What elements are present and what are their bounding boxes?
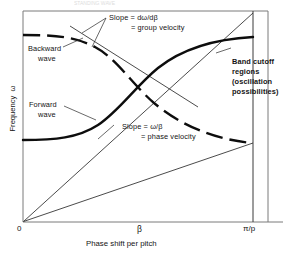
annotation-phase-velocity-line1: Slope = ω/β: [122, 122, 163, 131]
x-tick-label-0: 0: [17, 224, 21, 233]
y-axis-label: Frequency ω: [8, 73, 17, 145]
annotation-forward-wave-line1: Forward: [29, 100, 57, 109]
annotation-band-cutoff-line3: (oscillation: [232, 77, 272, 86]
annotation-band-cutoff-line2: regions: [232, 67, 259, 76]
annotation-phase-velocity-line2: = phase velocity: [141, 132, 196, 141]
x-tick-label-beta: β: [137, 224, 142, 234]
annotation-band-cutoff-line1: Band cutoff: [232, 57, 274, 66]
annotation-band-cutoff-line4: possibilities): [232, 87, 279, 96]
annotation-group-velocity-line2: = group velocity: [131, 23, 185, 32]
x-axis-label: Phase shift per pitch: [86, 239, 157, 248]
annotation-backward-wave-line2: wave: [38, 54, 56, 63]
annotation-forward-wave-line2: wave: [38, 110, 56, 119]
axes-frame: [23, 11, 283, 222]
group-velocity-tangent: [70, 26, 198, 107]
annotation-backward-wave-line1: Backward: [28, 44, 61, 53]
annotation-group-velocity-line1: Slope = dω/dβ: [109, 13, 158, 22]
phase-velocity-ray-lower: [24, 143, 254, 222]
dispersion-diagram: STANDING WAVE Frequ: [0, 0, 290, 257]
x-tick-label-pi-over-p: π/p: [243, 224, 255, 233]
